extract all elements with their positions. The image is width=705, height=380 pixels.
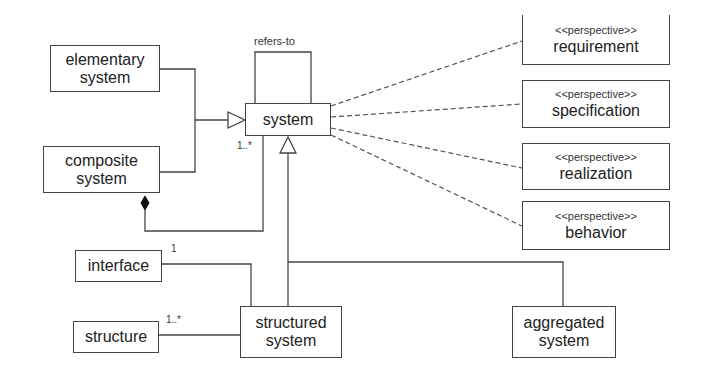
aggregated-generalization-line xyxy=(288,262,563,306)
dependency-behavior xyxy=(331,135,522,226)
structure-multiplicity-label: 1..* xyxy=(166,314,181,325)
class-name-line1: structured xyxy=(255,314,326,332)
perspective-name: realization xyxy=(560,165,633,183)
dependency-requirement xyxy=(331,41,522,106)
class-name-line2: system xyxy=(76,170,127,188)
perspective-requirement[interactable]: <<perspective>> requirement xyxy=(522,15,670,65)
class-name: interface xyxy=(88,257,149,275)
class-name-line2: system xyxy=(80,69,131,87)
class-name-line2: system xyxy=(539,332,590,350)
interface-association-line xyxy=(162,264,251,306)
composition-multiplicity-label: 1..* xyxy=(237,140,252,151)
class-system[interactable]: system xyxy=(245,103,331,136)
class-structured-system[interactable]: structured system xyxy=(240,306,342,358)
class-structure[interactable]: structure xyxy=(73,321,159,353)
class-interface[interactable]: interface xyxy=(75,250,162,282)
perspective-behavior[interactable]: <<perspective>> behavior xyxy=(522,201,670,250)
class-aggregated-system[interactable]: aggregated system xyxy=(512,306,616,358)
perspective-name: specification xyxy=(552,102,640,120)
refers-to-label: refers-to xyxy=(254,35,295,47)
perspective-name: requirement xyxy=(553,38,638,56)
stereotype-label: <<perspective>> xyxy=(555,24,637,36)
elementary-generalization-line xyxy=(160,69,195,172)
class-name-line2: system xyxy=(266,332,317,350)
composition-diamond xyxy=(141,196,149,210)
class-composite-system[interactable]: composite system xyxy=(43,146,160,193)
perspective-realization[interactable]: <<perspective>> realization xyxy=(522,143,670,190)
class-name: structure xyxy=(85,328,147,346)
perspective-name: behavior xyxy=(565,224,626,242)
class-name-line1: aggregated xyxy=(524,314,605,332)
stereotype-label: <<perspective>> xyxy=(555,88,637,100)
class-elementary-system[interactable]: elementary system xyxy=(50,45,160,92)
dependency-realization xyxy=(331,128,522,168)
interface-multiplicity-label: 1 xyxy=(171,243,177,254)
class-name-line1: elementary xyxy=(65,51,144,69)
class-name-line1: composite xyxy=(65,152,138,170)
dependency-specification xyxy=(331,104,522,117)
stereotype-label: <<perspective>> xyxy=(555,210,637,222)
generalization-arrowhead-left xyxy=(228,112,245,128)
refers-to-loop xyxy=(255,52,311,103)
class-name: system xyxy=(263,111,314,129)
stereotype-label: <<perspective>> xyxy=(555,151,637,163)
perspective-specification[interactable]: <<perspective>> specification xyxy=(522,80,670,128)
generalization-arrowhead-bottom xyxy=(280,137,296,153)
